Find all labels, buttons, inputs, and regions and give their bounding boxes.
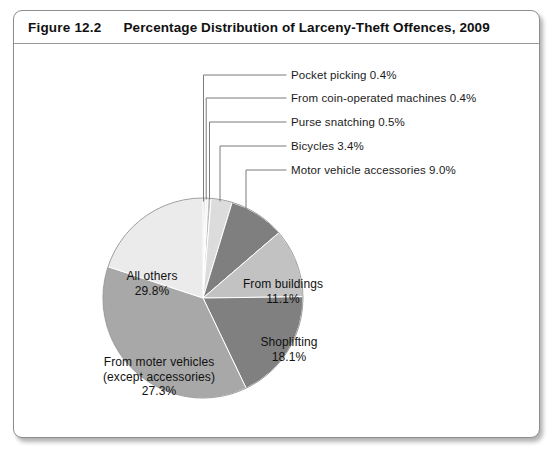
- callout-label-pocket-picking: Pocket picking 0.4%: [291, 69, 396, 81]
- slice-label-shoplifting-value: 18.1%: [239, 350, 339, 365]
- leader-lines: [204, 75, 287, 211]
- slice-label-from-buildings: From buildings 11.1%: [228, 277, 338, 306]
- callout-label-bicycles: Bicycles 3.4%: [291, 140, 364, 152]
- slice-label-from-buildings-value: 11.1%: [228, 292, 338, 307]
- callout-label-motor-vehicle-accessories: Motor vehicle accessories 9.0%: [291, 164, 456, 176]
- slice-label-from-moter-vehicles-line2: (except accessories): [79, 370, 239, 385]
- leader-line-motor-vehicle-accessories: [246, 170, 286, 211]
- slice-label-from-moter-vehicles-value: 27.3%: [79, 384, 239, 399]
- figure-root: Figure 12.2 Percentage Distribution of L…: [0, 0, 560, 461]
- chart-plot-area: Pocket picking 0.4% From coin-operated m…: [14, 44, 539, 438]
- slice-label-shoplifting: Shoplifting 18.1%: [239, 335, 339, 364]
- slice-label-from-buildings-name: From buildings: [228, 277, 338, 292]
- callout-label-coin-operated-machines: From coin-operated machines 0.4%: [291, 92, 476, 104]
- slice-label-shoplifting-name: Shoplifting: [239, 335, 339, 350]
- slice-label-all-others-value: 29.8%: [97, 284, 207, 299]
- slice-label-all-others-name: All others: [97, 269, 207, 284]
- leader-line-pocket-picking: [204, 75, 287, 201]
- slice-label-from-moter-vehicles: From moter vehicles (except accessories)…: [79, 355, 239, 399]
- leader-line-bicycles: [220, 146, 286, 201]
- figure-title: Percentage Distribution of Larceny-Theft…: [123, 20, 489, 35]
- figure-number: Figure 12.2: [28, 20, 101, 35]
- figure-frame: Figure 12.2 Percentage Distribution of L…: [13, 10, 540, 438]
- slice-label-from-moter-vehicles-line1: From moter vehicles: [79, 355, 239, 370]
- leader-line-purse-snatching: [210, 122, 287, 199]
- figure-header: Figure 12.2 Percentage Distribution of L…: [14, 11, 539, 44]
- slice-label-all-others: All others 29.8%: [97, 269, 207, 298]
- callout-label-purse-snatching: Purse snatching 0.5%: [291, 116, 405, 128]
